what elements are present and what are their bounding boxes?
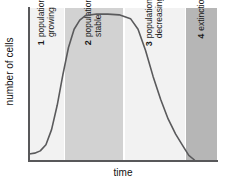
- phase-band-3-label: 3 population decreasing: [125, 12, 185, 124]
- population-growth-curve-figure: 1 population growing 2 population stable…: [0, 0, 228, 187]
- phase-band-2: 2 population stable: [65, 8, 123, 160]
- x-axis-line: [28, 160, 218, 162]
- phase-band-2-label: 2 population stable: [65, 12, 123, 124]
- x-axis-title: time: [29, 167, 217, 178]
- phase-band-1-number: 1: [37, 40, 47, 45]
- phase-band-2-number: 2: [85, 40, 95, 45]
- phase-band-3-text: population decreasing: [145, 0, 164, 38]
- phase-band-2-text: population stable: [85, 0, 104, 37]
- phase-band-1-label: 1 population growing: [29, 12, 64, 124]
- phase-band-3-number: 3: [145, 41, 155, 46]
- y-axis-line: [28, 7, 30, 162]
- phase-band-4-text: extinction: [197, 0, 207, 31]
- plot-area: 1 population growing 2 population stable…: [29, 8, 217, 160]
- y-axis-title: number of cells: [4, 27, 15, 117]
- phase-band-1-text: population growing: [37, 0, 56, 37]
- phase-band-4-number: 4: [197, 34, 207, 39]
- phase-band-1: 1 population growing: [29, 8, 64, 160]
- phase-band-3: 3 population decreasing: [125, 8, 185, 160]
- phase-band-4-label: 4 extinction: [186, 12, 217, 124]
- phase-band-4: 4 extinction: [186, 8, 217, 160]
